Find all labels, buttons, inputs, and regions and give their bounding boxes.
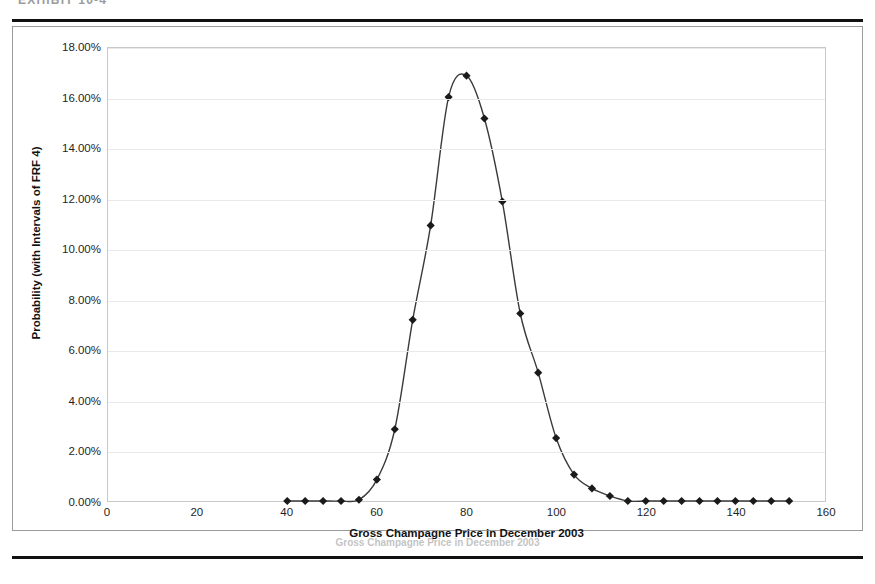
x-tick-label: 40 [280, 506, 293, 518]
y-tick-label: 12.00% [62, 193, 101, 205]
data-point-marker: 140 : 0.00% [731, 497, 739, 505]
data-point-marker: 64 : 2.85% [391, 425, 399, 433]
data-point-marker: 44 : 0.00% [301, 497, 309, 505]
x-tick-label: 120 [637, 506, 656, 518]
data-point-marker: 108 : 0.50% [588, 484, 596, 492]
x-tick-label: 140 [727, 506, 746, 518]
data-point-marker: 76 : 16.05% [444, 93, 452, 101]
x-tick-label: 100 [547, 506, 566, 518]
data-point-marker: 92 : 7.45% [516, 309, 524, 317]
y-tick-label: 2.00% [68, 445, 101, 457]
data-point-marker: 48 : 0.00% [319, 497, 327, 505]
header-rule [12, 19, 863, 22]
chart-figure: Probability (with Intervals of FRF 4) 0.… [12, 26, 863, 531]
data-point-marker: 68 : 7.20% [409, 316, 417, 324]
data-point-marker: 128 : 0.00% [678, 497, 686, 505]
x-tick-label: 160 [816, 506, 835, 518]
y-tick-label: 10.00% [62, 243, 101, 255]
x-tick-label: 80 [460, 506, 473, 518]
footer-rule [12, 556, 863, 559]
distribution-line [287, 74, 789, 502]
y-axis-tick-labels: 0.00%2.00%4.00%6.00%8.00%10.00%12.00%14.… [13, 47, 101, 502]
x-tick-label: 60 [370, 506, 383, 518]
data-point-marker: 96 : 5.10% [534, 369, 542, 377]
gridline-horizontal [108, 200, 825, 201]
data-point-marker: 84 : 15.20% [480, 114, 488, 122]
gridline-horizontal [108, 301, 825, 302]
data-point-marker: 144 : 0.00% [749, 497, 757, 505]
data-point-marker: 112 : 0.20% [606, 492, 614, 500]
gridline-horizontal [108, 99, 825, 100]
x-tick-label: 0 [104, 506, 110, 518]
data-point-marker: 40 : 0.00% [283, 497, 291, 505]
y-tick-label: 14.00% [62, 142, 101, 154]
gridline-horizontal [108, 48, 825, 49]
gridline-horizontal [108, 452, 825, 453]
distribution-series: 40 : 0.00%44 : 0.00%48 : 0.00%52 : 0.00%… [108, 48, 825, 501]
y-tick-label: 8.00% [68, 294, 101, 306]
y-tick-label: 4.00% [68, 395, 101, 407]
y-tick-label: 18.00% [62, 41, 101, 53]
data-point-marker: 136 : 0.00% [713, 497, 721, 505]
data-point-marker: 120 : 0.00% [642, 497, 650, 505]
page-header-text: EXHIBIT 10-4 [18, 0, 107, 7]
y-tick-label: 0.00% [68, 496, 101, 508]
distribution-markers: 40 : 0.00%44 : 0.00%48 : 0.00%52 : 0.00%… [283, 72, 793, 505]
figure-caption: Gross Champagne Price in December 2003 [0, 537, 875, 548]
gridline-horizontal [108, 149, 825, 150]
data-point-marker: 72 : 10.95% [427, 221, 435, 229]
x-axis-tick-labels: 020406080100120140160 [107, 506, 826, 526]
data-point-marker: 148 : 0.00% [767, 497, 775, 505]
data-point-marker: 132 : 0.00% [695, 497, 703, 505]
document-page: EXHIBIT 10-4 Probability (with Intervals… [0, 0, 875, 584]
y-tick-label: 16.00% [62, 92, 101, 104]
data-point-marker: 116 : 0.00% [624, 497, 632, 505]
y-tick-label: 6.00% [68, 344, 101, 356]
gridline-horizontal [108, 351, 825, 352]
data-point-marker: 152 : 0.00% [785, 497, 793, 505]
data-point-marker: 56 : 0.05% [355, 496, 363, 504]
gridline-horizontal [108, 402, 825, 403]
data-point-marker: 60 : 0.85% [373, 476, 381, 484]
plot-area: 40 : 0.00%44 : 0.00%48 : 0.00%52 : 0.00%… [107, 47, 826, 502]
data-point-marker: 52 : 0.00% [337, 497, 345, 505]
data-point-marker: 100 : 2.50% [552, 434, 560, 442]
x-tick-label: 20 [190, 506, 203, 518]
gridline-horizontal [108, 250, 825, 251]
data-point-marker: 124 : 0.00% [660, 497, 668, 505]
data-point-marker: 88 : 11.90% [498, 197, 506, 205]
